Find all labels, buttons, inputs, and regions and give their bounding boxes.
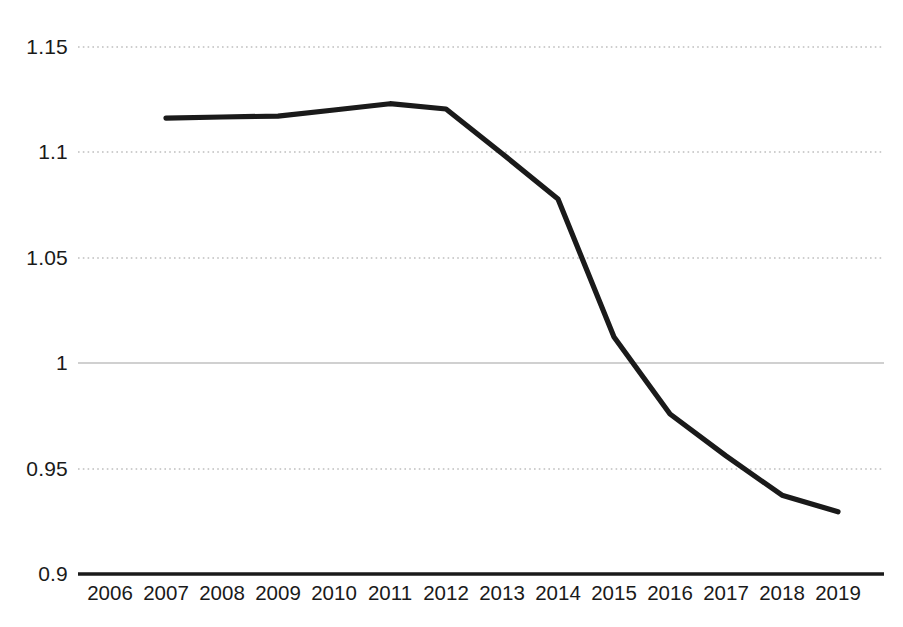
x-tick-label-2007: 2007 <box>138 583 194 604</box>
y-tick-label-0.9: 0.9 <box>10 563 68 584</box>
gridlines <box>78 47 884 469</box>
x-tick-label-2013: 2013 <box>474 583 530 604</box>
line-chart: 1.15 1.1 1.05 1 0.95 0.9 2006 2007 2008 … <box>0 0 903 627</box>
x-tick-label-2014: 2014 <box>530 583 586 604</box>
x-tick-label-2008: 2008 <box>194 583 250 604</box>
y-tick-label-1.05: 1.05 <box>10 247 68 268</box>
x-tick-label-2006: 2006 <box>82 583 138 604</box>
x-tick-label-2017: 2017 <box>698 583 754 604</box>
x-tick-label-2015: 2015 <box>586 583 642 604</box>
x-tick-label-2010: 2010 <box>306 583 362 604</box>
chart-plot-area <box>0 0 903 627</box>
x-tick-label-2009: 2009 <box>250 583 306 604</box>
y-tick-label-1: 1 <box>10 352 68 373</box>
x-tick-label-2011: 2011 <box>362 583 418 604</box>
y-tick-label-1.15: 1.15 <box>10 36 68 57</box>
series-line-1 <box>166 104 838 512</box>
x-tick-label-2018: 2018 <box>754 583 810 604</box>
x-tick-label-2016: 2016 <box>642 583 698 604</box>
y-tick-label-0.95: 0.95 <box>10 458 68 479</box>
y-tick-label-1.1: 1.1 <box>10 141 68 162</box>
x-tick-label-2012: 2012 <box>418 583 474 604</box>
x-tick-label-2019: 2019 <box>810 583 866 604</box>
